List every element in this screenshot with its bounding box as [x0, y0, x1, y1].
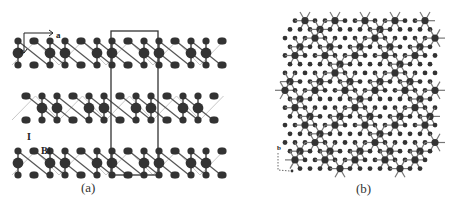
atom-label-bismuth: Bi	[41, 145, 50, 156]
crystal-structure-figure	[0, 0, 452, 210]
panel-b-top-view	[275, 12, 445, 177]
axis-label-a: a	[56, 30, 61, 40]
axis-label-c: c	[20, 46, 24, 56]
caption-a: (a)	[81, 180, 95, 196]
axis-label-b: b	[277, 144, 281, 152]
caption-b: (b)	[356, 181, 371, 197]
atom-label-iodine: I	[27, 131, 31, 142]
panel-a-side-view	[12, 30, 227, 179]
axes-icon-b	[278, 153, 293, 172]
